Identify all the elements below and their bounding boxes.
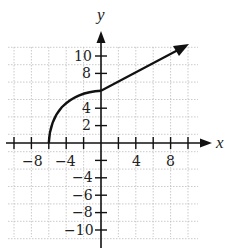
x-tick-label: −8 [22,153,43,169]
y-axis-arrow-icon [97,31,106,43]
y-tick-label: −10 [64,222,94,238]
x-tick-label: 4 [132,153,141,169]
ray-arrow-icon [173,44,189,56]
ray-series [101,50,178,91]
y-tick-label: 10 [74,48,92,64]
y-tick-label: 4 [82,100,91,116]
y-tick-label: −4 [72,169,93,185]
x-axis-label: x [215,133,224,152]
x-tick-label: 8 [166,153,175,169]
y-tick-label: 8 [82,65,91,81]
x-axis-arrow-icon [200,139,212,148]
x-tick-label: −4 [55,153,76,169]
y-tick-label: −8 [72,204,93,220]
y-tick-label: −6 [72,187,93,203]
y-tick-label: 2 [82,117,91,133]
y-axis-label: y [95,5,105,24]
graph: y x −8 −4 4 8 10 8 4 2 −4 −6 −8 −10 [0,0,231,251]
x-axis [6,137,212,149]
y-axis [95,31,107,248]
